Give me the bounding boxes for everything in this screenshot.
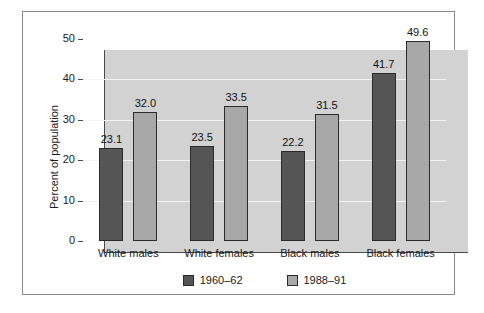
bar-value-label: 31.5 [302,99,352,111]
bar-value-label: 32.0 [120,97,170,109]
figure-border: 01020304050 Percent of population 23.132… [22,11,455,295]
legend-label: 1988–91 [304,275,347,286]
bar [372,73,396,241]
legend-label: 1960–62 [200,275,243,286]
legend-swatch [183,275,194,286]
category-label: Black females [341,247,461,259]
chart-legend: 1960–621988–91 [83,273,446,287]
bar-value-label: 22.2 [268,136,318,148]
bar-value-label: 41.7 [359,58,409,70]
y-axis-title: Percent of population [48,57,60,257]
y-tick-mark [78,79,83,80]
chart-figure: 01020304050 Percent of population 23.132… [0,0,484,313]
bar [224,106,248,241]
bar [190,146,214,241]
y-tick-mark [78,201,83,202]
y-tick-mark [78,160,83,161]
bar-value-label: 49.6 [393,26,443,38]
bar [281,151,305,241]
bar-value-label: 23.1 [86,133,136,145]
bar-value-label: 33.5 [211,91,261,103]
legend-swatch [287,275,298,286]
bar [315,114,339,241]
bar [133,112,157,241]
y-tick-label: 50 [35,33,75,44]
bar [406,41,430,241]
legend-entry: 1960–62 [183,275,243,286]
y-tick-mark [78,39,83,40]
bar-value-label: 23.5 [177,131,227,143]
bar [99,148,123,241]
y-tick-mark [78,241,83,242]
legend-entry: 1988–91 [287,275,347,286]
y-tick-mark [78,120,83,121]
